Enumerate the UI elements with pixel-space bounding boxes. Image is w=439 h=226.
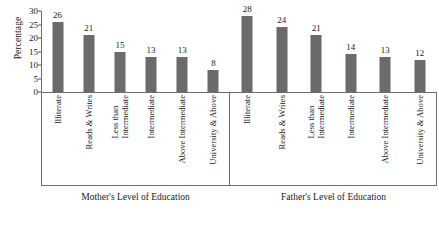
bar-value-label: 13 <box>381 46 390 55</box>
x-axis-category-label: Intermediate <box>146 95 156 138</box>
bar-slot: 26 <box>42 11 73 92</box>
x-axis-line <box>41 92 437 93</box>
bar-slot: 13 <box>136 11 167 92</box>
category-label-slot: University & Above <box>403 95 438 183</box>
bar-value-label: 26 <box>53 11 62 20</box>
x-axis-category-label: Less thanIntermediate <box>110 95 130 138</box>
bar[interactable] <box>345 54 356 92</box>
category-label-slot: Less thanIntermediate <box>299 95 334 183</box>
bar[interactable] <box>177 57 188 92</box>
bar[interactable] <box>52 22 63 92</box>
category-label-slot: Less thanIntermediate <box>104 95 135 183</box>
bar[interactable] <box>311 35 322 92</box>
bar-slot: 24 <box>265 11 300 92</box>
bar-value-label: 14 <box>346 43 355 52</box>
category-label-slot: Illiterate <box>230 95 265 183</box>
bar[interactable] <box>208 70 219 92</box>
y-axis-tickmark-30 <box>38 11 41 12</box>
category-label-slot: Intermediate <box>136 95 167 183</box>
category-label-slot: Intermediate <box>334 95 369 183</box>
y-axis-tick-30: 30 <box>29 7 38 16</box>
group-caption-mother: Mother's Level of Education <box>42 192 229 202</box>
bar-value-label: 13 <box>147 46 156 55</box>
y-axis-tick-20: 20 <box>29 34 38 43</box>
y-axis-tickmark-5 <box>38 78 41 79</box>
category-label-slot: Above Intermediate <box>167 95 198 183</box>
bar-slot: 15 <box>104 11 135 92</box>
x-axis-category-label: Illiterate <box>53 95 63 124</box>
bar-value-label: 8 <box>211 59 216 68</box>
bar-slot: 12 <box>403 11 438 92</box>
bar-value-label: 21 <box>312 24 321 33</box>
group-caption-father: Father's Level of Education <box>230 192 437 202</box>
plot-area: 26211513138 282421141312 <box>42 11 437 92</box>
x-axis-category-label: Less thanIntermediate <box>306 95 326 138</box>
bar-value-label: 13 <box>178 46 187 55</box>
x-axis-category-label: Reads & Writes <box>277 95 287 149</box>
bar-group-father: 282421141312 <box>230 11 437 92</box>
bar-slot: 28 <box>230 11 265 92</box>
category-label-slot: Above Intermediate <box>368 95 403 183</box>
y-axis-tick-group: 051015202530 <box>12 0 38 226</box>
y-axis-tick-25: 25 <box>29 20 38 29</box>
category-labels-mother: IlliterateReads & WritesLess thanInterme… <box>42 95 229 183</box>
category-label-slot: Reads & Writes <box>265 95 300 183</box>
bar-slot: 21 <box>73 11 104 92</box>
bar-value-label: 12 <box>415 49 424 58</box>
y-axis-tickmark-10 <box>38 65 41 66</box>
category-label-slot: University & Above <box>198 95 229 183</box>
x-axis-category-label: Above Intermediate <box>177 95 187 163</box>
y-axis-tickmark-15 <box>38 51 41 52</box>
y-axis-tick-10: 10 <box>29 61 38 70</box>
x-axis-category-label: University & Above <box>415 95 425 165</box>
bar-slot: 14 <box>334 11 369 92</box>
bar-value-label: 28 <box>243 5 252 14</box>
bar[interactable] <box>414 60 425 92</box>
bar[interactable] <box>380 57 391 92</box>
bar-chart: Percentage 051015202530 26211513138 2824… <box>0 0 439 226</box>
x-axis-category-label: University & Above <box>208 95 218 165</box>
y-axis-tick-15: 15 <box>29 47 38 56</box>
bar-slot: 21 <box>299 11 334 92</box>
y-axis-tickmark-25 <box>38 24 41 25</box>
bar-group-mother: 26211513138 <box>42 11 229 92</box>
bar-slot: 13 <box>167 11 198 92</box>
x-axis-category-label: Reads & Writes <box>84 95 94 149</box>
bar[interactable] <box>242 16 253 92</box>
x-axis-category-label: Intermediate <box>346 95 356 138</box>
bar-value-label: 21 <box>84 24 93 33</box>
bar-value-label: 24 <box>277 16 286 25</box>
x-axis-category-label: Illiterate <box>242 95 252 124</box>
y-axis-tickmark-0 <box>38 92 41 93</box>
y-axis-tickmark-20 <box>38 38 41 39</box>
bottom-frame-line <box>41 185 437 186</box>
bar[interactable] <box>83 35 94 92</box>
bar-slot: 13 <box>368 11 403 92</box>
bar[interactable] <box>276 27 287 92</box>
category-labels-father: IlliterateReads & WritesLess thanInterme… <box>230 95 437 183</box>
category-label-slot: Illiterate <box>42 95 73 183</box>
bar-value-label: 15 <box>115 41 124 50</box>
category-label-slot: Reads & Writes <box>73 95 104 183</box>
x-axis-category-label: Above Intermediate <box>380 95 390 163</box>
bar[interactable] <box>114 52 125 93</box>
bar-slot: 8 <box>198 11 229 92</box>
bar[interactable] <box>146 57 157 92</box>
